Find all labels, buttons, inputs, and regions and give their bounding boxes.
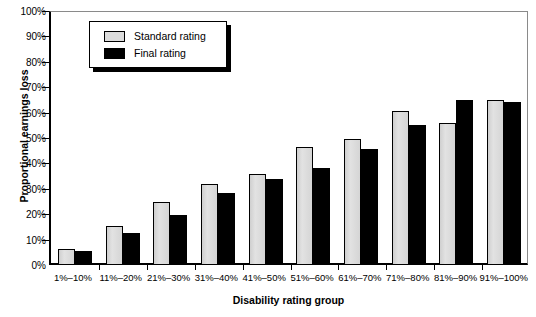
x-axis-label: 91%–100% <box>479 272 528 283</box>
y-axis-tick <box>42 11 49 12</box>
x-axis-tick <box>147 265 148 270</box>
bar-group <box>337 11 385 265</box>
bar-final <box>361 149 378 265</box>
bar-final <box>409 125 426 265</box>
x-axis-ticks <box>51 265 528 271</box>
y-axis-label: 90% <box>4 31 46 42</box>
bar-group <box>480 11 528 265</box>
x-axis-tick <box>99 265 100 270</box>
bar-standard <box>201 184 218 265</box>
x-axis-tick <box>434 265 435 270</box>
x-axis-label: 71%–80% <box>384 272 432 283</box>
y-axis-label: 60% <box>4 107 46 118</box>
bar-group <box>385 11 433 265</box>
y-axis-label: 20% <box>4 209 46 220</box>
x-axis-label: 51%–60% <box>288 272 336 283</box>
y-axis-label: 80% <box>4 56 46 67</box>
bar-standard <box>153 202 170 266</box>
bar-standard <box>249 174 266 265</box>
x-axis-tick <box>338 265 339 270</box>
x-axis-label: 1%–10% <box>49 272 97 283</box>
x-axis-label: 41%–50% <box>240 272 288 283</box>
y-axis-label: 30% <box>4 183 46 194</box>
bar-group <box>433 11 481 265</box>
y-axis-tick <box>42 214 49 215</box>
x-axis-tick <box>482 265 483 270</box>
bar-final <box>456 100 473 265</box>
bar-final <box>218 193 235 265</box>
legend-swatch-standard-icon <box>104 31 125 42</box>
x-axis-tick <box>243 265 244 270</box>
bar-final <box>123 233 140 265</box>
y-axis-tick <box>42 240 49 241</box>
bar-standard <box>58 249 75 266</box>
y-axis-tick <box>42 163 49 164</box>
bar-group <box>290 11 338 265</box>
y-axis-label: 70% <box>4 82 46 93</box>
legend-swatch-final-icon <box>104 48 125 59</box>
bar-standard <box>106 226 123 265</box>
bar-final <box>266 179 283 265</box>
y-axis-tick <box>42 62 49 63</box>
bar-final <box>75 251 92 265</box>
legend-item-standard: Standard rating <box>104 28 226 44</box>
x-axis-label: 11%–20% <box>97 272 145 283</box>
chart-legend: Standard rating Final rating <box>89 21 227 68</box>
x-axis-label: 31%–40% <box>192 272 240 283</box>
y-axis-tick-labels: 0%10%20%30%40%50%60%70%80%90%100% <box>4 0 46 317</box>
bar-final <box>313 168 330 265</box>
legend-item-final: Final rating <box>104 45 226 61</box>
x-axis-tick-labels: 1%–10%11%–20%21%–30%31%–40%41%–50%51%–60… <box>49 272 528 283</box>
y-axis-label: 0% <box>4 260 46 271</box>
x-axis-tick <box>386 265 387 270</box>
bar-standard <box>296 147 313 265</box>
bar-final <box>504 102 521 265</box>
y-axis-label: 100% <box>4 6 46 17</box>
x-axis-label: 81%–90% <box>432 272 480 283</box>
y-axis-label: 40% <box>4 158 46 169</box>
y-axis-tick <box>42 113 49 114</box>
x-axis-label: 61%–70% <box>336 272 384 283</box>
bar-group <box>242 11 290 265</box>
y-axis-label: 50% <box>4 133 46 144</box>
y-axis-tick <box>42 189 49 190</box>
bar-standard <box>392 111 409 265</box>
bar-final <box>170 215 187 265</box>
y-axis-label: 10% <box>4 234 46 245</box>
x-axis-tick <box>195 265 196 270</box>
x-axis-tick <box>291 265 292 270</box>
y-axis-tick <box>42 138 49 139</box>
legend-label-standard: Standard rating <box>134 30 206 42</box>
bar-chart: Proportional earnings loss 0%10%20%30%40… <box>0 0 536 317</box>
legend-label-final: Final rating <box>134 47 186 59</box>
bar-standard <box>439 123 456 265</box>
y-axis-tick <box>42 36 49 37</box>
x-axis-title: Disability rating group <box>49 294 528 306</box>
y-axis-tick <box>42 87 49 88</box>
x-axis-label: 21%–30% <box>145 272 193 283</box>
bar-standard <box>487 100 504 265</box>
bar-standard <box>344 139 361 265</box>
